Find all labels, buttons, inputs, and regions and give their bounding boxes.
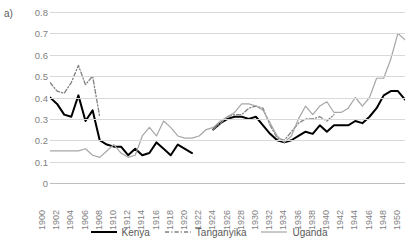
plot-area — [50, 12, 405, 183]
y-axis-tick-label: 0.8 — [10, 7, 48, 18]
y-axis-tick-label: 0.4 — [10, 92, 48, 103]
y-axis-tick-label: 0.7 — [10, 28, 48, 39]
gridline — [50, 76, 405, 77]
y-axis-tick-label: 0 — [10, 178, 48, 189]
chart-legend: KenyaTanganyikaUganda — [0, 222, 418, 242]
y-axis-tick-label: 0.3 — [10, 113, 48, 124]
gridline — [50, 33, 405, 34]
y-axis-tick-label: 0.1 — [10, 156, 48, 167]
legend-swatch-tanganyika-icon — [165, 227, 191, 237]
legend-swatch-kenya-icon — [91, 227, 117, 237]
legend-item-kenya[interactable]: Kenya — [91, 227, 150, 238]
legend-label: Tanganyika — [196, 227, 247, 238]
legend-swatch-uganda-icon — [261, 227, 287, 237]
gridline — [50, 98, 405, 99]
y-axis-tick-labels: 0.80.70.60.50.40.30.20.10 — [0, 0, 48, 244]
y-axis-tick-label: 0.5 — [10, 71, 48, 82]
legend-label: Uganda — [292, 227, 327, 238]
series-line-kenya — [50, 95, 192, 155]
legend-item-uganda[interactable]: Uganda — [261, 227, 327, 238]
y-axis-tick-label: 0.6 — [10, 49, 48, 60]
legend-item-tanganyika[interactable]: Tanganyika — [165, 227, 247, 238]
legend-label: Kenya — [122, 227, 150, 238]
gridline — [50, 55, 405, 56]
gridline — [50, 119, 405, 120]
gridline — [50, 162, 405, 163]
series-line-kenya — [213, 91, 405, 142]
series-line-uganda — [50, 33, 405, 157]
gridline — [50, 12, 405, 13]
chart-container: a) 0.80.70.60.50.40.30.20.10 19001902190… — [0, 0, 418, 244]
gridline — [50, 140, 405, 141]
y-axis-tick-label: 0.2 — [10, 135, 48, 146]
